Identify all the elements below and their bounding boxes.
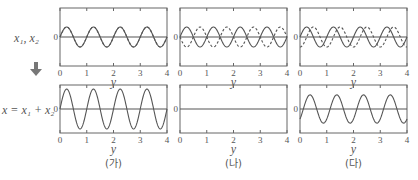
- x-tick-label: 4: [285, 68, 290, 78]
- bottom-plot: 012340y: [174, 85, 290, 156]
- x-tick-label: 4: [165, 135, 170, 145]
- x-tick-label: 3: [138, 135, 143, 145]
- x-tick-label: 4: [165, 68, 170, 78]
- y-zero-label: 0: [294, 32, 299, 42]
- x-tick-label: 4: [405, 135, 410, 145]
- y-zero-label: 0: [54, 104, 59, 114]
- y-zero-label: 0: [294, 104, 299, 114]
- wave-superposition-figure: x₁, x₂ x = x₁ + x₂ 012340y012340y(가)0123…: [0, 0, 418, 180]
- top-plot: 012340y: [54, 8, 170, 89]
- panel-2: 012340y012340y(나): [174, 8, 290, 169]
- x-tick-label: 1: [205, 68, 210, 78]
- x-axis-label: y: [350, 142, 357, 156]
- top-plot: 012340y: [294, 8, 410, 89]
- x-tick-label: 3: [378, 68, 383, 78]
- x-tick-label: 3: [258, 68, 263, 78]
- panel-caption: (다): [345, 158, 362, 169]
- x-tick-label: 4: [405, 68, 410, 78]
- bottom-plot: 012340y: [54, 85, 170, 156]
- x-tick-label: 3: [138, 68, 143, 78]
- x-tick-label: 1: [325, 135, 330, 145]
- x-axis-label: y: [110, 142, 117, 156]
- x-tick-label: 0: [178, 135, 183, 145]
- x-axis-label: y: [230, 142, 237, 156]
- panel-1: 012340y012340y(가): [54, 8, 170, 169]
- x-tick-label: 1: [205, 135, 210, 145]
- y-zero-label: 0: [174, 104, 179, 114]
- x-tick-label: 3: [378, 135, 383, 145]
- x-tick-label: 1: [325, 68, 330, 78]
- row-label-top: x₁, x₂: [13, 31, 39, 45]
- x-tick-label: 3: [258, 135, 263, 145]
- x-tick-label: 4: [285, 135, 290, 145]
- top-plot: 012340y: [174, 8, 290, 89]
- y-zero-label: 0: [174, 32, 179, 42]
- panel-caption: (가): [105, 158, 122, 169]
- x-tick-label: 0: [298, 135, 303, 145]
- x-tick-label: 0: [178, 68, 183, 78]
- x-tick-label: 1: [85, 135, 90, 145]
- bottom-plot: 012340y: [294, 85, 410, 156]
- down-arrow-icon: [30, 62, 42, 76]
- y-zero-label: 0: [54, 32, 59, 42]
- x-tick-label: 1: [85, 68, 90, 78]
- panel-3: 012340y012340y(다): [294, 8, 410, 169]
- x-tick-label: 0: [58, 135, 63, 145]
- row-label-bottom: x = x₁ + x₂: [1, 103, 55, 117]
- x-tick-label: 0: [58, 68, 63, 78]
- x-tick-label: 0: [298, 68, 303, 78]
- panel-caption: (나): [225, 158, 242, 169]
